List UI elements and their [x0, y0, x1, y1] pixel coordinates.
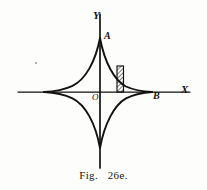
cusp-label-b: B	[153, 91, 160, 101]
paper-speck	[35, 62, 37, 64]
caption-prefix: Fig.	[79, 169, 98, 181]
astroid-arc-quadrant-2	[44, 38, 100, 92]
astroid-diagram-canvas	[0, 0, 207, 190]
x-axis-label: X	[181, 84, 188, 95]
cusp-label-a: A	[104, 31, 111, 41]
figure-caption: Fig. 26e.	[0, 169, 207, 181]
figure-astroid: Y X A B O Fig. 26e.	[0, 0, 207, 190]
astroid-arc-quadrant-4	[100, 92, 152, 148]
y-axis-label: Y	[93, 10, 100, 21]
area-element-strip	[117, 66, 124, 92]
origin-label: O	[92, 93, 99, 102]
caption-number: 26e.	[108, 169, 128, 181]
caption-spacer	[101, 169, 104, 181]
astroid-arc-quadrant-1	[100, 38, 152, 92]
